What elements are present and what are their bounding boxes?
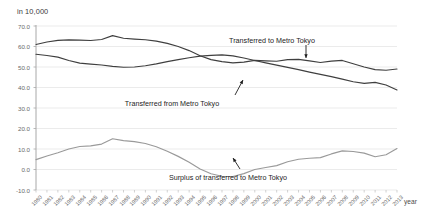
plot-canvas	[0, 0, 431, 216]
series-line-2	[36, 139, 397, 177]
series-line-1	[36, 54, 397, 90]
annotation-arrow-head-0	[304, 54, 307, 58]
x-axis-title: year	[404, 198, 417, 205]
y-axis-tick-label: 50.0	[6, 64, 30, 71]
y-axis-tick-label: 20.0	[6, 125, 30, 132]
series-line-0	[36, 36, 397, 71]
y-axis-tick-label: 0.0	[6, 166, 30, 173]
y-axis-tick-label: -10.0	[6, 187, 30, 194]
axis-lines	[34, 25, 398, 193]
y-axis-tick-label: 30.0	[6, 105, 30, 112]
series-annotation-2: Surplus of transferred to Metro Tokyo	[169, 173, 287, 182]
y-axis-tick-label: 60.0	[6, 43, 30, 50]
gridlines	[36, 26, 397, 190]
y-axis-tick-label: 70.0	[6, 23, 30, 30]
y-axis-tick-label: 10.0	[6, 146, 30, 153]
series-annotation-1: Transferred from Metro Tokyo	[125, 99, 219, 108]
chart-container: in 10,000 70.060.050.040.030.020.010.00.…	[0, 0, 431, 216]
y-axis-tick-label: 40.0	[6, 84, 30, 91]
series-annotation-0: Transferred to Metro Tokyo	[229, 36, 315, 45]
